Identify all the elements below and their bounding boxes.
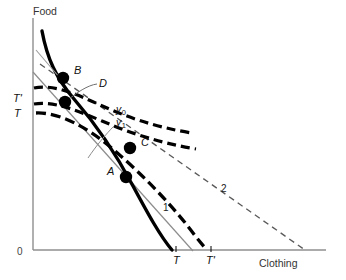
line-label-2: 2 <box>221 184 227 194</box>
curve-label-y0-text: y <box>116 103 121 115</box>
point-label-C: C <box>141 137 149 148</box>
point-marker-B[interactable] <box>57 72 69 84</box>
point-marker-A[interactable] <box>120 171 132 183</box>
ppf-original-curve <box>42 31 172 250</box>
y-axis-label: Food <box>33 6 57 17</box>
curve-label-y0: y0 <box>116 104 125 115</box>
point-label-D: D <box>99 78 107 89</box>
origin-label: 0 <box>17 247 23 257</box>
curve-label-y1: y1 <box>116 117 125 128</box>
budget-line-1 <box>33 72 193 251</box>
x-axis-tick-label-t: T <box>173 255 180 266</box>
point-marker-D[interactable] <box>59 96 71 108</box>
point-label-A: A <box>107 166 114 177</box>
point-marker-C[interactable] <box>124 142 136 154</box>
indifference-curve-y0 <box>34 87 192 133</box>
x-axis-ticks-group <box>176 246 211 252</box>
curve-label-y1-subscript: 1 <box>122 121 126 130</box>
ppf-diagram: Food Clothing 0 T' T T T' B D C A y0 y1 … <box>0 0 346 280</box>
curve-label-y1-text: y <box>116 116 121 128</box>
line-label-1: 1 <box>163 203 169 213</box>
y-axis-tick-label-t: T <box>14 108 21 119</box>
x-axis-tick-label-tprime: T' <box>206 255 215 266</box>
budget-line-2 <box>40 64 305 250</box>
curve-label-y0-subscript: 0 <box>122 108 126 117</box>
y-axis-tick-label-tprime: T' <box>13 93 22 104</box>
x-axis-label: Clothing <box>259 258 298 269</box>
point-label-B: B <box>74 65 81 76</box>
ppf-expanded-curve <box>36 113 207 250</box>
diagram-canvas <box>0 0 346 280</box>
